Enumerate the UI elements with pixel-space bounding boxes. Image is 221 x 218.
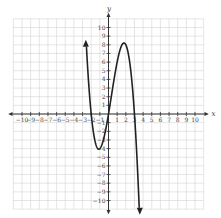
svg-text:8: 8 <box>102 41 106 48</box>
svg-text:10: 10 <box>98 24 106 31</box>
svg-text:−10: −10 <box>93 197 106 204</box>
svg-text:6: 6 <box>102 58 106 65</box>
x-axis-label: x <box>211 110 215 118</box>
graph-canvas: −10−9−8−7−6−5−4−3−2−112345678910−10−9−8−… <box>0 0 221 218</box>
svg-text:10: 10 <box>191 116 199 123</box>
svg-text:3: 3 <box>102 84 106 91</box>
svg-text:1: 1 <box>115 116 119 123</box>
svg-text:−6: −6 <box>97 162 106 169</box>
svg-text:8: 8 <box>176 116 180 123</box>
svg-text:5: 5 <box>150 116 154 123</box>
svg-text:5: 5 <box>102 67 106 74</box>
svg-text:−9: −9 <box>97 188 106 195</box>
function-curve <box>83 40 143 215</box>
svg-text:2: 2 <box>102 93 106 100</box>
svg-text:−5: −5 <box>97 153 106 160</box>
svg-text:−7: −7 <box>97 171 106 178</box>
svg-text:7: 7 <box>167 116 171 123</box>
svg-text:2: 2 <box>124 116 128 123</box>
svg-text:−1: −1 <box>97 119 106 126</box>
svg-text:−8: −8 <box>97 179 106 186</box>
svg-text:1: 1 <box>102 101 106 108</box>
svg-text:9: 9 <box>184 116 188 123</box>
svg-text:4: 4 <box>102 75 106 82</box>
y-axis-label: y <box>106 5 112 13</box>
svg-text:4: 4 <box>141 116 145 123</box>
svg-text:6: 6 <box>158 116 162 123</box>
svg-text:7: 7 <box>102 49 106 56</box>
svg-text:9: 9 <box>102 32 106 39</box>
